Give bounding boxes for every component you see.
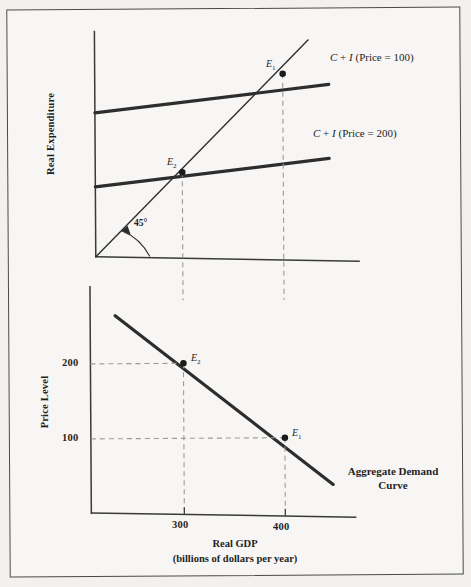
bottom-dropline-300 — [183, 363, 184, 514]
bottom-e2-sub: 2 — [197, 358, 201, 366]
x-axis-subtitle: (billions of dollars per year) — [125, 553, 345, 565]
bottom-y-axis — [90, 286, 91, 514]
ad-label-line2: Curve — [333, 479, 453, 493]
bottom-label-e1: E1 — [292, 427, 302, 441]
ytick-label-200: 200 — [62, 357, 79, 369]
bottom-guide-200 — [90, 363, 183, 364]
bottom-point-e1 — [282, 434, 289, 441]
figure-content: Real Expenditure C + I (Price = 100) C +… — [0, 0, 471, 587]
ad-label-line1: Aggregate Demand — [333, 465, 453, 479]
x-axis-title: Real GDP — [145, 538, 325, 550]
figure-page: Real Expenditure C + I (Price = 100) C +… — [0, 0, 471, 587]
xtick-label-300: 300 — [172, 519, 189, 531]
xtick-label-400: 400 — [273, 521, 290, 533]
bottom-panel-graphics — [0, 0, 471, 587]
aggregate-demand-curve — [115, 314, 333, 485]
aggregate-demand-label: Aggregate Demand Curve — [333, 465, 453, 493]
bottom-label-e2: E2 — [191, 352, 201, 366]
bottom-y-axis-title: Price Level — [39, 367, 51, 437]
bottom-x-axis — [91, 511, 356, 519]
bottom-point-e2 — [180, 360, 187, 367]
ytick-label-100: 100 — [62, 432, 79, 444]
bottom-guide-100 — [91, 438, 285, 439]
bottom-e1-sub: 1 — [298, 433, 302, 441]
